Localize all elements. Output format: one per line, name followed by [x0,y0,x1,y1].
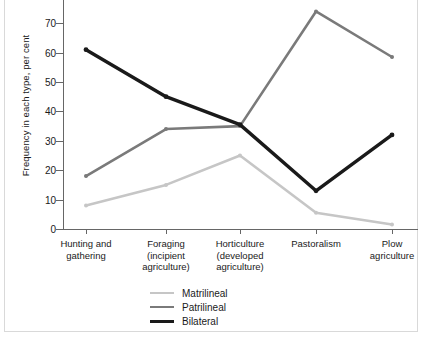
legend-item-matrilineal: Matrilineal [150,286,320,300]
data-point-bilateral-0 [84,47,89,52]
series-line-patrilineal [86,11,392,176]
line-chart: Frequency in each type, per cent 0102030… [0,0,424,364]
legend-label: Patrilineal [182,302,226,313]
legend-label: Bilateral [182,316,218,327]
legend-swatch-icon [150,320,174,323]
data-point-matrilineal-4 [390,223,394,227]
data-point-patrilineal-4 [390,55,394,59]
data-point-matrilineal-0 [84,203,88,207]
data-point-patrilineal-1 [164,127,168,131]
legend-item-bilateral: Bilateral [150,314,320,328]
legend-label: Matrilineal [182,288,228,299]
data-point-bilateral-4 [390,133,395,138]
legend-item-patrilineal: Patrilineal [150,300,320,314]
data-point-bilateral-3 [314,188,319,193]
figure-canvas: Frequency in each type, per cent 0102030… [0,0,424,364]
chart-legend: MatrilinealPatrilinealBilateral [150,286,320,328]
data-point-matrilineal-2 [238,154,242,158]
data-point-bilateral-2 [238,122,243,127]
data-point-matrilineal-1 [164,183,168,187]
data-point-matrilineal-3 [314,211,318,215]
series-line-matrilineal [86,156,392,225]
data-point-patrilineal-0 [84,174,88,178]
data-point-patrilineal-3 [314,9,318,13]
legend-swatch-icon [150,306,174,308]
legend-swatch-icon [150,292,174,294]
data-point-bilateral-1 [164,94,169,99]
series-line-bilateral [86,50,392,191]
